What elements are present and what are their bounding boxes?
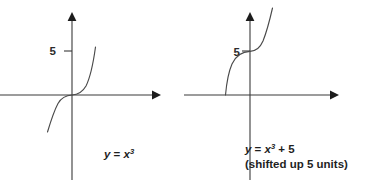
left-y-axis-arrowhead <box>68 12 77 21</box>
right-equation-label: y = x3 + 5 <box>244 142 295 155</box>
right-x-axis-arrowhead <box>330 91 339 100</box>
right-cubic-curve <box>226 8 273 95</box>
left-x-axis-arrowhead <box>152 91 161 100</box>
right-shift-note: (shifted up 5 units) <box>245 158 348 170</box>
cubic-shift-figure: 5 y = x3 5 y = x3 + 5 (shifted up 5 unit… <box>0 0 367 193</box>
right-eq-addend: + 5 <box>275 143 295 155</box>
left-eq-exponent: 3 <box>130 147 135 156</box>
left-equation-label: y = x3 <box>103 147 135 160</box>
left-y-tick-label-5: 5 <box>50 45 57 57</box>
left-panel-graph: 5 y = x3 <box>0 12 161 180</box>
right-panel-graph: 5 y = x3 + 5 (shifted up 5 units) <box>184 8 348 180</box>
right-y-axis-arrowhead <box>246 12 255 21</box>
figure-canvas: 5 y = x3 5 y = x3 + 5 (shifted up 5 unit… <box>0 0 367 193</box>
